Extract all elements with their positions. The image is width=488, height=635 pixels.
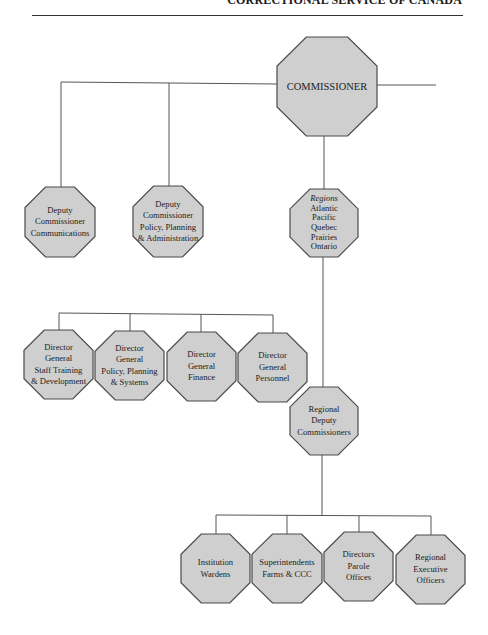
label-line: Regional: [297, 404, 350, 415]
node-regional-deputy-label: Regional Deputy Commissioners: [297, 404, 350, 438]
node-directors-parole: Directors Parole Offices: [324, 532, 393, 601]
node-dg-finance: Director General Finance: [167, 332, 236, 401]
node-directors-parole-label: Directors Parole Offices: [343, 549, 375, 583]
label-line: & Development: [31, 376, 86, 387]
node-deputy-policy: Deputy Commissioner Policy, Planning & A…: [133, 186, 203, 257]
label-line: Personnel: [256, 373, 290, 384]
node-dg-policy-systems: Director General Policy, Planning & Syst…: [95, 331, 164, 400]
label-line: Director: [31, 342, 86, 353]
label-line: General: [256, 362, 290, 373]
node-dg-staff-training: Director General Staff Training & Develo…: [24, 330, 93, 399]
label-line: Director: [256, 350, 290, 361]
label-line: Institution: [198, 557, 233, 568]
node-dg-personnel-label: Director General Personnel: [256, 350, 290, 384]
label-line: Wardens: [198, 569, 233, 580]
label-line: Policy, Planning: [138, 222, 198, 233]
label-line: General: [101, 354, 157, 365]
node-regional-executive: Regional Executive Officers: [396, 535, 465, 604]
label-line: General: [187, 361, 216, 372]
node-regional-executive-label: Regional Executive Officers: [413, 552, 447, 586]
label-line: COMMISSIONER: [287, 81, 368, 92]
node-deputy-policy-label: Deputy Commissioner Policy, Planning & A…: [138, 199, 198, 245]
node-regional-deputy-commissioners: Regional Deputy Commissioners: [290, 387, 358, 455]
connector-dg-bar: [59, 313, 273, 315]
label-line: Offices: [343, 572, 375, 583]
label-line: Staff Training: [31, 365, 86, 376]
label-line: Deputy: [31, 205, 90, 216]
region-item: Ontario: [310, 242, 338, 252]
label-line: Commissioners: [297, 427, 350, 438]
node-institution-wardens-label: Institution Wardens: [198, 557, 233, 580]
node-institution-wardens: Institution Wardens: [181, 534, 250, 603]
label-line: Finance: [187, 372, 216, 383]
label-line: Director: [101, 343, 157, 354]
node-commissioner-label: COMMISSIONER: [287, 81, 368, 92]
label-line: Superintendents: [259, 557, 314, 568]
node-deputy-communications-label: Deputy Commissioner Communications: [31, 205, 90, 239]
label-line: & Administration: [138, 233, 198, 244]
label-line: Directors: [343, 549, 375, 560]
node-deputy-communications: Deputy Commissioner Communications: [25, 187, 95, 257]
label-line: Communications: [31, 228, 90, 239]
node-commissioner: COMMISSIONER: [277, 37, 377, 136]
node-regions-label: Regions Atlantic Pacific Quebec Prairies…: [310, 194, 338, 252]
node-superintendents-farms-label: Superintendents Farms & CCC: [259, 557, 314, 580]
node-dg-policy-systems-label: Director General Policy, Planning & Syst…: [101, 343, 157, 389]
node-superintendents-farms: Superintendents Farms & CCC: [252, 534, 322, 603]
label-line: Deputy: [297, 415, 350, 426]
label-line: & Systems: [101, 377, 157, 388]
label-line: Commissioner: [31, 216, 90, 227]
label-line: Deputy: [138, 199, 198, 210]
label-line: Director: [187, 349, 216, 360]
label-line: Farms & CCC: [259, 569, 314, 580]
label-line: Officers: [413, 575, 447, 586]
label-line: Parole: [343, 561, 375, 572]
label-line: Executive: [413, 564, 447, 575]
node-regions: Regions Atlantic Pacific Quebec Prairies…: [290, 189, 358, 257]
label-line: Commissioner: [138, 210, 198, 221]
label-line: General: [31, 353, 86, 364]
node-dg-finance-label: Director General Finance: [187, 349, 216, 383]
label-line: Policy, Planning: [101, 366, 157, 377]
node-dg-staff-training-label: Director General Staff Training & Develo…: [31, 342, 86, 388]
label-line: Regional: [413, 552, 447, 563]
connector-units-bar: [216, 515, 431, 516]
